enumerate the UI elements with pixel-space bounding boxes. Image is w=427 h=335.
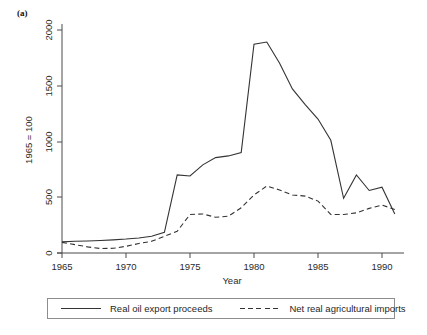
y-axis-ticks: 2000 1500 1000 500 0 bbox=[43, 19, 62, 255]
y-tick-label-1000: 1000 bbox=[43, 131, 54, 152]
solid-line-icon bbox=[61, 308, 101, 309]
legend-item-real-oil-export-proceeds: Real oil export proceeds bbox=[61, 299, 212, 318]
series-line-real-oil-export-proceeds bbox=[62, 42, 395, 242]
y-tick-label-2000: 2000 bbox=[43, 19, 54, 40]
x-tick-label-1975: 1975 bbox=[179, 261, 200, 272]
chart-plot-area: 2000 1500 1000 500 0 1965 = 100 1965 197… bbox=[0, 0, 427, 335]
legend-label-net-real-agricultural-imports: Net real agricultural imports bbox=[289, 303, 405, 314]
x-axis-title: Year bbox=[222, 275, 241, 286]
y-tick-label-1500: 1500 bbox=[43, 75, 54, 96]
x-tick-label-1985: 1985 bbox=[307, 261, 328, 272]
dashed-line-icon bbox=[240, 308, 280, 309]
legend-label-real-oil-export-proceeds: Real oil export proceeds bbox=[110, 303, 212, 314]
x-tick-label-1990: 1990 bbox=[371, 261, 392, 272]
x-tick-label-1980: 1980 bbox=[243, 261, 264, 272]
x-axis-ticks: 1965 1970 1975 1980 1985 1990 bbox=[51, 253, 392, 272]
figure-panel-a: (a) 2000 1500 1000 500 0 1965 = 100 bbox=[0, 0, 427, 335]
x-tick-label-1965: 1965 bbox=[51, 261, 72, 272]
chart-legend: Real oil export proceeds Net real agricu… bbox=[47, 298, 395, 319]
legend-item-net-real-agricultural-imports: Net real agricultural imports bbox=[240, 299, 405, 318]
x-tick-label-1970: 1970 bbox=[115, 261, 136, 272]
y-axis-title: 1965 = 100 bbox=[23, 116, 34, 164]
y-tick-label-500: 500 bbox=[43, 189, 54, 205]
y-tick-label-0: 0 bbox=[43, 250, 54, 255]
